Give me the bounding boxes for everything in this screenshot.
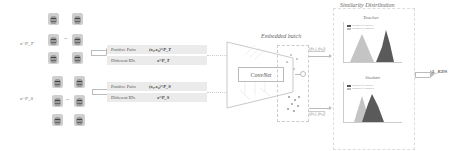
teacher-histogram-bars	[344, 22, 402, 62]
face-image	[52, 114, 63, 126]
face-image	[48, 34, 59, 46]
different-ids-label: Different IDs	[107, 58, 149, 63]
face-image	[74, 114, 85, 126]
face-image	[48, 52, 59, 64]
connector-line	[207, 55, 227, 56]
teacher-embedding-formula: (f(x₁), f(x₂))	[309, 47, 325, 52]
student-embedding-formula: (f(x₁), f(x₂))	[309, 111, 325, 116]
loss-label: L_KDS	[432, 69, 447, 74]
embedded-batch-box	[277, 45, 309, 122]
dash-icon: –	[64, 35, 67, 41]
face-image	[72, 13, 83, 25]
arrow-right-icon	[91, 50, 106, 56]
student-histogram: Distance of Positives Distance of Negati…	[343, 82, 402, 123]
teacher-distribution-label: x~P_T	[20, 41, 33, 46]
different-ids-value: x~P_T	[149, 58, 170, 63]
face-image	[72, 34, 83, 46]
face-image	[74, 95, 85, 107]
face-image	[52, 76, 63, 88]
face-image	[52, 95, 63, 107]
embedded-batch-title: Embedded batch	[261, 33, 301, 39]
teacher-chart-title: Teacher	[363, 15, 379, 20]
different-ids-label: Different IDs	[107, 95, 149, 100]
arrow-right-icon	[309, 108, 331, 109]
student-distribution-label: x~P_S	[20, 96, 33, 101]
teacher-pair-box: Positive Pairs(x₁,x₂)~P_T Different IDsx…	[107, 45, 207, 65]
arrow-right-icon	[309, 56, 331, 57]
face-image	[72, 52, 83, 64]
student-histogram-bars	[344, 82, 402, 122]
connector-line	[207, 92, 227, 93]
dash-icon: –	[66, 96, 69, 102]
positive-pairs-label: Positive Pairs	[107, 47, 149, 52]
face-image	[74, 76, 85, 88]
teacher-histogram: Distance of Positives Distance of Negati…	[343, 22, 402, 63]
arrow-right-icon	[92, 89, 107, 95]
different-ids-value: x~P_S	[149, 95, 169, 100]
student-chart-title: Student	[365, 75, 380, 80]
student-pair-box: Positive Pairs(x₁,x₂)~P_S Different IDsx…	[107, 82, 207, 102]
positive-pairs-label: Positive Pairs	[107, 84, 149, 89]
arrow-right-icon	[415, 72, 430, 78]
positive-pairs-value: (x₁,x₂)~P_S	[149, 84, 171, 89]
face-image	[48, 13, 59, 25]
positive-pairs-value: (x₁,x₂)~P_T	[149, 47, 171, 52]
